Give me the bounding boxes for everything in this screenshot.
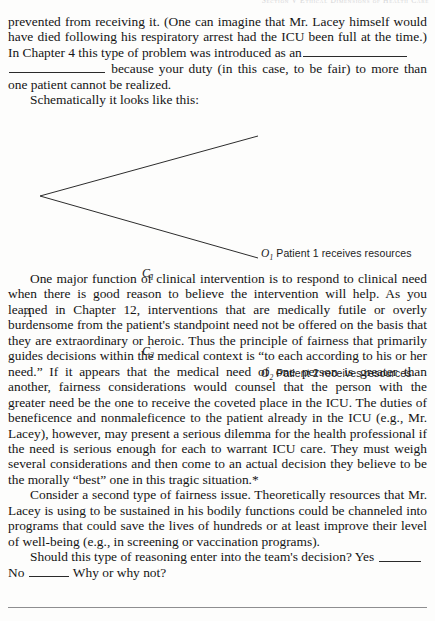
branch-line-c2 (40, 196, 258, 258)
text-block-lower: One major function of clinical intervent… (8, 271, 427, 581)
fill-in-blank-2[interactable] (9, 61, 105, 73)
footnote-separator-rule (8, 607, 427, 608)
paragraph-5-part-2: No (8, 565, 24, 580)
outcome-1-text: Patient 1 receives resources (276, 247, 411, 259)
paragraph-4-text: Consider a second type of fairness issue… (8, 487, 427, 548)
running-head: Section V Ethical Dimensions of Health C… (262, 0, 429, 5)
diagram-outcome-1: O1 Patient 1 receives resources (261, 247, 412, 262)
paragraph-5-part-3: Why or why not? (73, 565, 166, 580)
branch-line-c1 (40, 136, 258, 196)
paragraph-continuation: prevented from receiving it. (One can im… (8, 14, 427, 92)
fill-in-blank-1[interactable] (303, 45, 407, 57)
paragraph-5: Should this type of reasoning enter into… (8, 549, 427, 581)
fill-in-blank-no[interactable] (29, 565, 69, 577)
document-page: Section V Ethical Dimensions of Health C… (0, 0, 435, 621)
fill-in-blank-yes[interactable] (379, 549, 421, 561)
paragraph-5-part-1: Should this type of reasoning enter into… (30, 550, 374, 565)
paragraph-2-text: Schematically it looks like this: (30, 92, 199, 107)
paragraph-4: Consider a second type of fairness issue… (8, 487, 427, 549)
text-block-upper: prevented from receiving it. (One can im… (8, 14, 427, 107)
paragraph-2: Schematically it looks like this: (8, 92, 427, 107)
paragraph-3: One major function of clinical intervent… (8, 271, 427, 487)
diagram-lines-svg (0, 118, 435, 268)
outcome-1-id-subscript: 1 (269, 253, 273, 262)
schematic-diagram: A C1 C2 O1 Patient 1 receives resources … (0, 118, 435, 268)
paragraph-3-text: One major function of clinical intervent… (8, 271, 427, 487)
